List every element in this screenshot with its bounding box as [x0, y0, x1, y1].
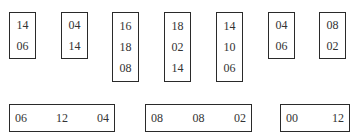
horizontal-box-2: 08 08 02	[145, 104, 252, 132]
box-value: 04	[69, 18, 81, 32]
box-value: 04	[276, 18, 288, 32]
box-value: 18	[120, 40, 132, 54]
box-value: 08	[151, 111, 163, 125]
box-value: 16	[120, 19, 132, 33]
vertical-box-5: 14 10 06	[216, 12, 243, 82]
box-value: 12	[332, 111, 344, 125]
box-value: 02	[327, 39, 339, 53]
horizontal-box-3: 00 12	[280, 104, 350, 132]
horizontal-box-1: 06 12 04	[9, 104, 115, 132]
box-value: 14	[17, 18, 29, 32]
box-value: 14	[172, 61, 184, 75]
box-value: 14	[224, 19, 236, 33]
vertical-box-6: 04 06	[268, 12, 295, 59]
box-value: 10	[224, 40, 236, 54]
box-value: 18	[172, 19, 184, 33]
box-value: 14	[69, 39, 81, 53]
box-value: 06	[276, 39, 288, 53]
box-value: 02	[234, 111, 246, 125]
box-value: 06	[224, 61, 236, 75]
box-value: 12	[56, 111, 68, 125]
box-value: 08	[327, 18, 339, 32]
vertical-box-3: 16 18 08	[112, 12, 139, 82]
box-value: 06	[17, 39, 29, 53]
box-value: 06	[15, 111, 27, 125]
vertical-box-2: 04 14	[61, 12, 88, 59]
box-value: 02	[172, 40, 184, 54]
vertical-box-4: 18 02 14	[164, 12, 191, 82]
vertical-box-7: 08 02	[319, 12, 346, 59]
box-value: 08	[193, 111, 205, 125]
box-value: 08	[120, 61, 132, 75]
box-value: 04	[97, 111, 109, 125]
vertical-box-1: 14 06	[9, 12, 36, 59]
box-value: 00	[286, 111, 298, 125]
